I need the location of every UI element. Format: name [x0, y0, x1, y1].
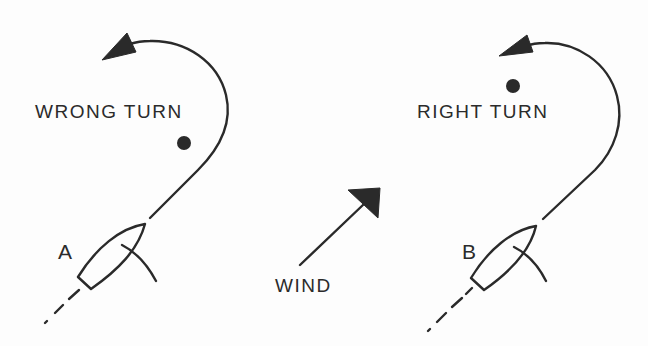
wrong-turn-caption: WRONG TURN [35, 102, 183, 121]
diagram-canvas: WRONG TURN A WIND RIGHT TURN B [0, 0, 648, 346]
boat-a-boom-icon [122, 245, 156, 281]
wake-a-dashed-line [45, 290, 79, 323]
wrong-turn-group [45, 33, 228, 323]
mark-b-icon [506, 79, 520, 93]
course-a-arrowhead-icon [102, 33, 136, 60]
course-a-path [130, 41, 228, 218]
right-turn-group [428, 35, 619, 331]
course-b-arrowhead-icon [499, 35, 533, 56]
wind-arrow-group [300, 188, 380, 265]
right-turn-caption: RIGHT TURN [417, 102, 548, 121]
boat-b-boom-icon [514, 247, 546, 281]
boat-a-hull-icon [78, 224, 145, 289]
wind-label: WIND [275, 276, 332, 295]
boat-a-label: A [58, 241, 74, 262]
mark-a-icon [177, 136, 191, 150]
boat-b-hull-icon [471, 226, 536, 290]
wake-b-dashed-line [428, 288, 472, 331]
boat-b-label: B [462, 241, 478, 262]
course-b-path [526, 43, 619, 219]
wind-arrow-shaft [300, 204, 364, 265]
